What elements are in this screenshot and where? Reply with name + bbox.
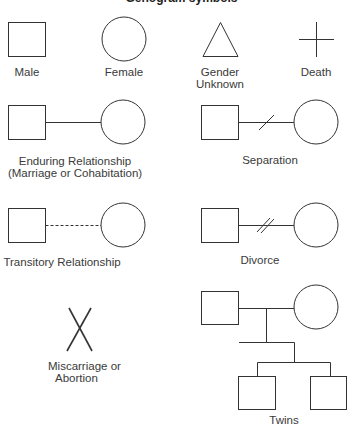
divorce-icon <box>202 203 339 247</box>
separation-label: Separation <box>230 154 310 167</box>
male-square-icon <box>9 23 46 57</box>
miscarriage-x-icon <box>67 308 92 351</box>
transitory-label: Transitory Relationship <box>0 256 124 269</box>
miscarriage-label-line2: Abortion <box>55 372 115 385</box>
enduring-label-line2: (Marriage or Cohabitation) <box>0 167 150 180</box>
death-label: Death <box>291 66 341 79</box>
death-cross-icon <box>299 22 334 57</box>
divorce-label: Divorce <box>230 254 290 267</box>
female-circle-icon <box>102 17 146 61</box>
female-label: Female <box>99 66 149 79</box>
transitory-relationship-icon <box>9 203 146 247</box>
twins-label: Twins <box>264 414 304 427</box>
twins-icon <box>202 285 347 410</box>
gender-unknown-triangle-icon <box>203 23 238 57</box>
male-label: Male <box>2 66 52 79</box>
separation-icon <box>202 100 339 144</box>
enduring-relationship-icon <box>9 100 146 144</box>
gender-unknown-label-line2: Unknown <box>190 78 250 91</box>
